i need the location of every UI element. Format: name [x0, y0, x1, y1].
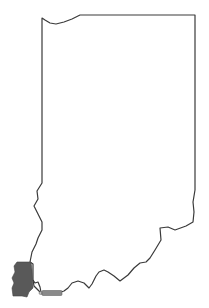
- map-label-box: [42, 291, 62, 296]
- city-marker-icon: [39, 292, 42, 295]
- highlighted-county-posey[interactable]: [12, 262, 33, 297]
- state-map: [0, 0, 209, 308]
- state-outline-indiana: [30, 15, 195, 294]
